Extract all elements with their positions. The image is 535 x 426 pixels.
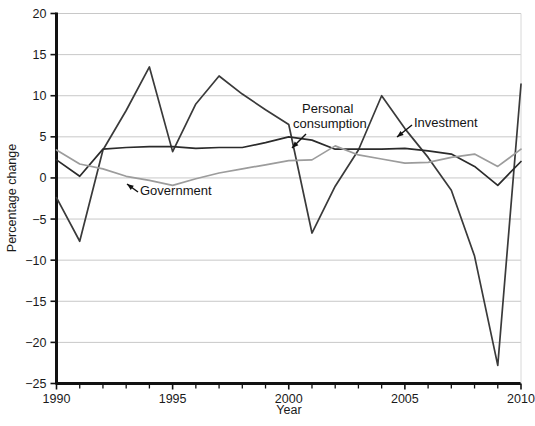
annotation-label-personal-line2: consumption [293,116,367,131]
chart-background [0,0,535,426]
x-axis-title: Year [276,403,301,417]
y-tick-label: −25 [25,377,46,391]
y-tick-label: 20 [33,7,47,21]
y-tick-label: 15 [33,48,47,62]
x-tick-label: 1990 [43,392,71,406]
y-tick-label: 10 [33,89,47,103]
x-tick-label: 2010 [507,392,535,406]
y-axis-title: Percentage change [5,144,19,252]
annotation-label-investment: Investment [414,115,478,130]
y-tick-label: 5 [40,130,47,144]
y-tick-label: −15 [25,295,46,309]
y-tick-label: −10 [25,254,46,268]
x-tick-label: 1995 [159,392,187,406]
annotation-label-government: Government [140,183,212,198]
chart-figure: 19901995200020052010 −25−20−15−10−505101… [0,0,535,426]
x-tick-label: 2005 [391,392,419,406]
y-tick-label: −5 [32,213,46,227]
y-tick-label: −20 [25,336,46,350]
line-chart: 19901995200020052010 −25−20−15−10−505101… [0,0,535,426]
y-tick-label: 0 [40,171,47,185]
annotation-label-personal-line1: Personal [302,101,353,116]
